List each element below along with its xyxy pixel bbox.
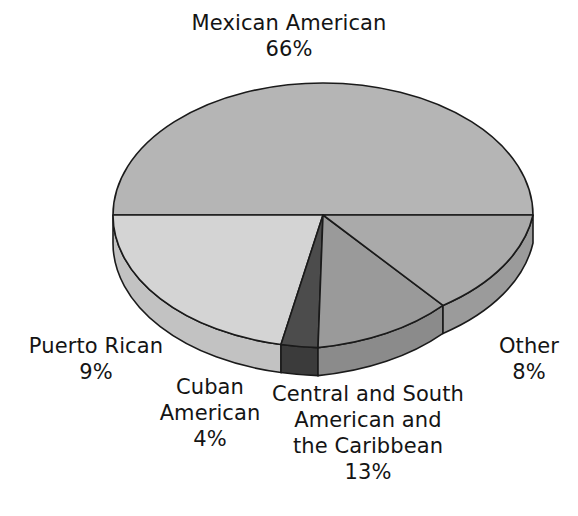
pie-label-puerto-rican-name: Puerto Rican (8, 333, 184, 359)
pie-label-central-south-american-name-line-1: Central and South (266, 381, 470, 407)
pie-chart-figure: Mexican American 66% Puerto Rican 9% Cub… (0, 0, 578, 516)
pie-label-cuban-american-name-line-1: Cuban (136, 374, 284, 400)
pie-label-central-south-american-name-line-2: American and (266, 407, 470, 433)
pie-label-mexican-american-name: Mexican American (189, 10, 389, 36)
pie-label-other-name: Other (486, 333, 572, 359)
pie-label-other: Other 8% (486, 333, 572, 385)
pie-slice-mexican-american (113, 83, 533, 215)
pie-side-cuban-american (281, 345, 318, 376)
pie-label-mexican-american: Mexican American 66% (189, 10, 389, 62)
pie-label-cuban-american-name-line-2: American (136, 400, 284, 426)
pie-label-central-south-american: Central and South American and the Carib… (266, 381, 470, 485)
pie-label-mexican-american-value: 66% (189, 36, 389, 62)
pie-label-other-value: 8% (486, 359, 572, 385)
pie-label-cuban-american: Cuban American 4% (136, 374, 284, 452)
pie-label-cuban-american-value: 4% (136, 426, 284, 452)
pie-label-central-south-american-value: 13% (266, 459, 470, 485)
pie-label-central-south-american-name-line-3: the Caribbean (266, 433, 470, 459)
